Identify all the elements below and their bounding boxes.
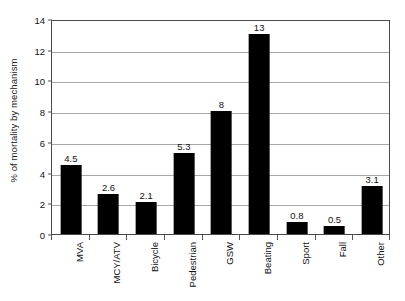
x-axis-category-label: MVA <box>74 242 85 262</box>
bar[interactable] <box>286 222 307 234</box>
x-label-slot: Fall <box>315 240 353 301</box>
x-label-slot: MCY/ATV <box>89 240 127 301</box>
bar[interactable] <box>98 194 119 234</box>
bar-value-label: 0.8 <box>290 210 303 221</box>
bar-slot: 8 <box>203 21 241 234</box>
bar[interactable] <box>249 34 270 234</box>
bars-layer: 4.52.62.15.38130.80.53.1 <box>52 21 389 234</box>
bar-slot: 2.1 <box>127 21 165 234</box>
bar[interactable] <box>324 226 345 234</box>
y-tick-label: 0 <box>40 230 45 241</box>
x-label-slot: Pedestrian <box>164 240 202 301</box>
x-label-slot: MVA <box>51 240 89 301</box>
bar-slot: 13 <box>240 21 278 234</box>
y-tick-label: 2 <box>40 199 45 210</box>
x-label-slot: Bicycle <box>126 240 164 301</box>
x-axis-category-label: Other <box>375 242 386 266</box>
y-axis-title: % of mortality by mechanism <box>0 0 26 240</box>
bar-slot: 5.3 <box>165 21 203 234</box>
bar[interactable] <box>211 111 232 234</box>
bar[interactable] <box>136 202 157 234</box>
x-axis-category-label: Bicycle <box>149 242 160 272</box>
y-tick-label: 10 <box>34 76 45 87</box>
bar-value-label: 8 <box>219 99 224 110</box>
bar-value-label: 4.5 <box>64 153 77 164</box>
x-axis-category-label: Beating <box>262 242 273 274</box>
x-axis-category-label: MCY/ATV <box>111 242 122 284</box>
bar-slot: 4.5 <box>52 21 90 234</box>
bar-value-label: 5.3 <box>177 141 190 152</box>
x-label-slot: Beating <box>239 240 277 301</box>
y-tick-label: 6 <box>40 137 45 148</box>
bar[interactable] <box>60 165 81 234</box>
y-axis-tick-labels: 02468101214 <box>26 20 48 235</box>
x-label-slot: Other <box>352 240 390 301</box>
bar-slot: 0.8 <box>278 21 316 234</box>
y-tick-label: 4 <box>40 168 45 179</box>
x-axis-tick-labels: MVAMCY/ATVBicyclePedestrianGSWBeatingSpo… <box>51 240 390 301</box>
bar-slot: 3.1 <box>353 21 391 234</box>
y-axis-title-label: % of mortality by mechanism <box>8 58 19 182</box>
bar-value-label: 2.1 <box>140 190 153 201</box>
bar[interactable] <box>362 186 383 234</box>
x-axis-category-label: Fall <box>337 242 348 257</box>
bar-value-label: 0.5 <box>328 214 341 225</box>
x-axis-category-label: Pedestrian <box>187 242 198 287</box>
bar-value-label: 13 <box>254 22 265 33</box>
plot-area: 4.52.62.15.38130.80.53.1 <box>51 20 390 235</box>
y-tick-label: 12 <box>34 45 45 56</box>
y-tick-label: 14 <box>34 15 45 26</box>
x-label-slot: GSW <box>202 240 240 301</box>
x-label-slot: Sport <box>277 240 315 301</box>
bar-slot: 0.5 <box>316 21 354 234</box>
bar-value-label: 2.6 <box>102 182 115 193</box>
x-axis-category-label: Sport <box>300 242 311 265</box>
bar-slot: 2.6 <box>90 21 128 234</box>
bar-value-label: 3.1 <box>366 174 379 185</box>
bar[interactable] <box>173 153 194 234</box>
bar-chart: % of mortality by mechanism 02468101214 … <box>0 0 405 301</box>
y-tick-label: 8 <box>40 107 45 118</box>
x-axis-category-label: GSW <box>224 242 235 265</box>
